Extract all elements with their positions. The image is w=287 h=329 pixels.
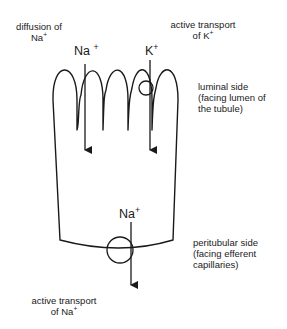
active-k-line2: of K+ [160,30,246,41]
active-na-line1: active transport [26,295,102,306]
peritubular-line3: capillaries) [193,259,258,270]
top-na-ion-label: Na + [74,44,99,58]
diffusion-na-line2: Na+ [10,32,68,43]
peritubular-side-label: peritubular side (facing efferent capill… [193,237,258,270]
diffusion-na-line1: diffusion of [10,21,68,32]
active-transport-k-label: active transport of K+ [160,19,246,41]
bottom-na-ion-label: Na+ [119,207,140,221]
active-transport-na-label: active transport of Na+ [26,295,102,317]
luminal-line3: the tubule) [198,103,266,114]
luminal-side-label: luminal side (facing lumen of the tubule… [198,81,266,114]
top-k-ion-label: K+ [145,44,158,58]
luminal-line2: (facing lumen of [198,92,266,103]
cell-outline [53,70,178,248]
peritubular-line1: peritubular side [193,237,258,248]
luminal-line1: luminal side [198,81,266,92]
active-na-line2: of Na+ [26,306,102,317]
peritubular-line2: (facing efferent [193,248,258,259]
active-k-line1: active transport [160,19,246,30]
tubule-cell-diagram [0,0,287,329]
na-pump-icon [107,237,133,263]
diffusion-na-label: diffusion of Na+ [10,21,68,43]
